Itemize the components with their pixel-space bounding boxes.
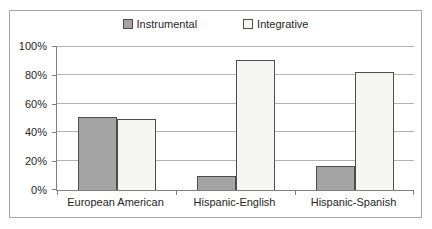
x-category-label: Hispanic-Spanish [294, 196, 413, 209]
y-tick-label: 20% [10, 155, 47, 167]
x-axis-tick [413, 190, 414, 195]
y-tick-label: 0% [10, 184, 47, 196]
y-axis-labels: 0%20%40%60%80%100% [10, 46, 50, 190]
bar-instrumental-3 [316, 166, 355, 190]
y-tick-label: 80% [10, 69, 47, 81]
x-axis-tick [295, 190, 296, 195]
legend-swatch-instrumental [123, 19, 133, 29]
x-axis-tick [57, 190, 58, 195]
bar-instrumental-2 [197, 176, 236, 190]
legend-swatch-integrative [243, 19, 253, 29]
x-axis-labels: European AmericanHispanic-EnglishHispani… [56, 196, 413, 210]
y-tick-label: 40% [10, 126, 47, 138]
chart-frame: InstrumentalIntegrative 0%20%40%60%80%10… [9, 10, 422, 218]
bar-integrative-1 [117, 119, 156, 190]
legend-item-integrative: Integrative [243, 18, 308, 30]
bar-integrative-2 [236, 60, 275, 190]
legend-label: Instrumental [137, 18, 198, 30]
x-axis-tick [176, 190, 177, 195]
bar-integrative-3 [355, 72, 394, 190]
bar-instrumental-1 [78, 117, 117, 190]
y-tick-label: 60% [10, 98, 47, 110]
bar-group [57, 46, 176, 190]
x-category-label: Hispanic-English [175, 196, 294, 209]
x-category-label: European American [56, 196, 175, 209]
plot-area [56, 46, 414, 191]
legend-item-instrumental: Instrumental [123, 18, 198, 30]
bar-chart-figure: InstrumentalIntegrative 0%20%40%60%80%10… [0, 0, 432, 229]
y-tick-label: 100% [10, 40, 47, 52]
legend-label: Integrative [257, 18, 308, 30]
chart-legend: InstrumentalIntegrative [10, 18, 421, 30]
bar-group [176, 46, 295, 190]
bar-group [295, 46, 414, 190]
